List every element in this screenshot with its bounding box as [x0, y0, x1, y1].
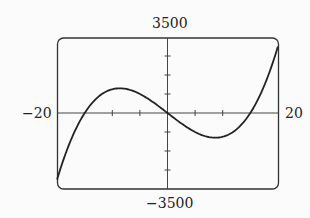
plot-area [0, 0, 310, 218]
